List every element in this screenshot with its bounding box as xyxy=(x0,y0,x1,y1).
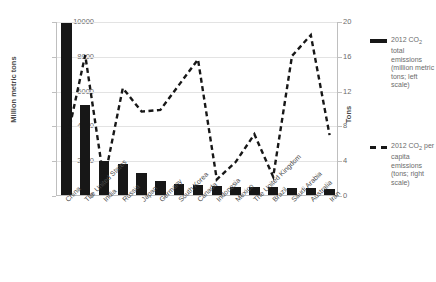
y-axis-right-tick-label: 8 xyxy=(343,122,369,130)
y-axis-left-tick-mark xyxy=(52,196,56,197)
legend-swatch-bar-icon xyxy=(370,39,387,43)
line-series xyxy=(57,22,339,196)
y-axis-right-tick-label: 16 xyxy=(343,53,369,61)
y-axis-right-tick-label: 20 xyxy=(343,18,369,26)
y-axis-left-title: Million metric tons xyxy=(9,30,18,150)
x-axis-category-labels: ChinaThe United StatesIndiaRussiaJapanGe… xyxy=(56,198,338,282)
chart-legend: 2012 CO2 total emissions (million metric… xyxy=(370,36,436,197)
legend-item-total-emissions: 2012 CO2 total emissions (million metric… xyxy=(370,36,436,90)
plot-area xyxy=(56,22,338,196)
legend-swatch-dashed-line-icon xyxy=(370,146,387,149)
y-axis-right-tick-label: 12 xyxy=(343,88,369,96)
legend-label-total-emissions: 2012 CO2 total emissions (million metric… xyxy=(391,36,436,90)
co2-emissions-chart: Million metric tons Tons 020004000600080… xyxy=(0,0,436,282)
y-axis-right-tick-label: 4 xyxy=(343,157,369,165)
y-axis-right-tick-label: 0 xyxy=(343,192,369,200)
legend-item-per-capita-emissions: 2012 CO2 per capita emissions (tons; rig… xyxy=(370,142,436,187)
legend-label-per-capita-emissions: 2012 CO2 per capita emissions (tons; rig… xyxy=(391,142,436,187)
